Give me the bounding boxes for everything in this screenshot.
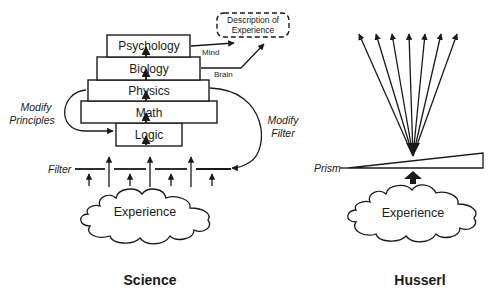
ray-convergence-point bbox=[406, 143, 420, 156]
description-line-1: Description of bbox=[227, 15, 280, 25]
experience-label-husserl: Experience bbox=[382, 206, 445, 220]
experience-cloud-husserl: Experience bbox=[348, 185, 476, 242]
experience-cloud-science: Experience bbox=[81, 189, 210, 244]
filter: Filter bbox=[48, 157, 231, 187]
modify-filter-line-2: Filter bbox=[271, 127, 295, 139]
modify-principles-line-2: Principles bbox=[9, 114, 55, 126]
modify-filter-line-1: Modify bbox=[268, 114, 300, 126]
filter-label: Filter bbox=[48, 163, 72, 175]
stack-label-logic: Logic bbox=[135, 128, 164, 142]
science-title: Science bbox=[124, 272, 177, 288]
modify-filter-arrow: Modify Filter bbox=[210, 88, 299, 168]
stack-label-physics: Physics bbox=[128, 84, 169, 98]
experience-to-prism-arrow bbox=[404, 171, 422, 184]
stack-label-math: Math bbox=[136, 106, 163, 120]
prism-label: Prism bbox=[314, 162, 341, 174]
stack-box-logic: Logic bbox=[116, 123, 182, 146]
diagram-canvas: Logic Math Physics Biology Psychology bbox=[0, 0, 494, 302]
description-of-experience-box: Description of Experience bbox=[217, 13, 289, 37]
rays bbox=[359, 34, 457, 156]
stack-box-math: Math bbox=[81, 101, 217, 123]
stack-box-biology: Biology bbox=[97, 57, 200, 80]
science-panel: Logic Math Physics Biology Psychology bbox=[9, 13, 299, 288]
stack-box-psychology: Psychology bbox=[107, 35, 190, 57]
prism: Prism bbox=[314, 153, 483, 174]
mind-arrow: Mind bbox=[191, 43, 234, 57]
husserl-panel: Prism Experience Husserl bbox=[314, 34, 483, 288]
stack-label-biology: Biology bbox=[129, 62, 168, 76]
mind-label: Mind bbox=[202, 48, 219, 57]
description-line-2: Experience bbox=[232, 25, 275, 35]
passing-arrows bbox=[109, 157, 191, 187]
husserl-title: Husserl bbox=[394, 272, 445, 288]
modify-principles-line-1: Modify bbox=[21, 101, 53, 113]
discipline-stack: Logic Math Physics Biology Psychology bbox=[81, 35, 217, 146]
stack-label-psychology: Psychology bbox=[118, 39, 179, 53]
stack-box-physics: Physics bbox=[88, 80, 209, 101]
brain-label: Brain bbox=[214, 70, 233, 79]
prism-wedge bbox=[348, 153, 483, 168]
experience-label-science: Experience bbox=[114, 205, 177, 219]
